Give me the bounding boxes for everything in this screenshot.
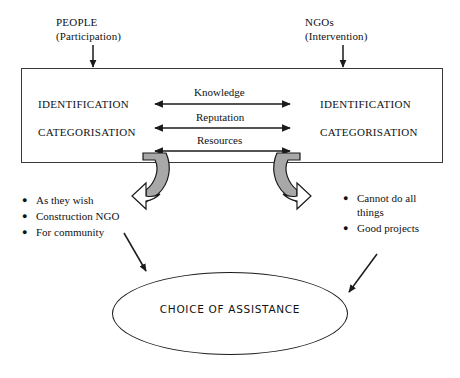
list-item: ● Cannot do all things (343, 191, 423, 219)
process-box-right-identification: IDENTIFICATION (320, 98, 411, 111)
bullet-icon: ● (22, 209, 36, 223)
process-box-right-categorisation: CATEGORISATION (320, 126, 418, 139)
list-item-label: Construction NGO (36, 209, 119, 223)
source-qualifier-people: (Participation) (56, 30, 121, 43)
flow-label-knowledge: Knowledge (194, 86, 245, 99)
process-box-left-identification: IDENTIFICATION (38, 98, 129, 111)
process-box-left-categorisation: CATEGORISATION (38, 126, 136, 139)
source-label-people: PEOPLE (56, 16, 98, 29)
list-item: ● Good projects (343, 221, 423, 235)
outcome-list-people: ● As they wish ● Construction NGO ● For … (22, 193, 119, 241)
list-item: ● Construction NGO (22, 209, 119, 223)
source-qualifier-ngos: (Intervention) (305, 30, 368, 43)
arrow-left-outcomes-to-result (124, 233, 146, 271)
list-item-label: Good projects (357, 221, 419, 235)
bullet-icon: ● (22, 193, 36, 207)
list-item-label: For community (36, 225, 104, 239)
result-label: CHOICE OF ASSISTANCE (112, 303, 348, 315)
flow-label-reputation: Reputation (196, 111, 244, 124)
outcome-list-ngos: ● Cannot do all things ● Good projects (343, 191, 423, 237)
bullet-icon: ● (343, 191, 357, 205)
list-item: ● As they wish (22, 193, 119, 207)
bullet-icon: ● (343, 221, 357, 235)
diagram-canvas: PEOPLE (Participation) NGOs (Interventio… (0, 0, 460, 378)
flow-label-resources: Resources (197, 134, 242, 147)
bullet-icon: ● (22, 225, 36, 239)
list-item-label: As they wish (36, 193, 93, 207)
source-label-ngos: NGOs (305, 16, 334, 29)
arrow-right-outcomes-to-result (349, 254, 377, 292)
list-item-label: Cannot do all things (357, 191, 423, 219)
list-item: ● For community (22, 225, 119, 239)
